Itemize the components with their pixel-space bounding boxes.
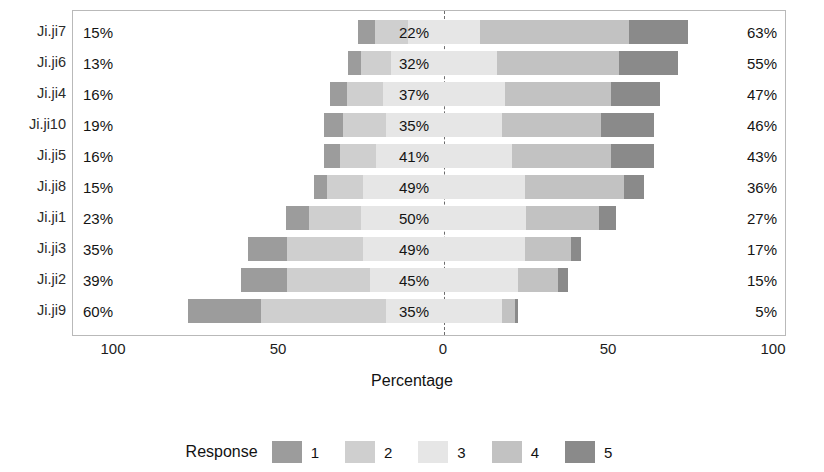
bar-segment-response-1[interactable] <box>248 237 288 261</box>
bar-segment-response-5[interactable] <box>619 51 678 75</box>
bar-segment-response-4[interactable] <box>526 206 599 230</box>
bar-segment-response-1[interactable] <box>324 113 344 137</box>
row-middle-percentage: 49% <box>379 172 449 203</box>
bar-segment-response-2[interactable] <box>287 268 370 292</box>
bar-segment-response-1[interactable] <box>286 206 309 230</box>
bar-segment-response-4[interactable] <box>502 113 601 137</box>
row-right-percentage: 36% <box>707 172 777 203</box>
legend-key-label: 3 <box>457 444 465 461</box>
row-left-percentage: 19% <box>83 110 113 141</box>
legend-items: 12345 <box>272 441 639 463</box>
y-axis-label-Ji-ji6: Ji.ji6 <box>0 47 66 78</box>
stacked-bar[interactable] <box>324 144 654 168</box>
legend-item-response-5[interactable]: 5 <box>565 441 632 463</box>
bar-segment-response-5[interactable] <box>601 113 654 137</box>
row-right-percentage: 46% <box>707 110 777 141</box>
bar-segment-response-5[interactable] <box>558 268 568 292</box>
legend-swatch-4 <box>492 441 522 463</box>
bar-segment-response-5[interactable] <box>599 206 616 230</box>
legend-swatch-2 <box>345 441 375 463</box>
legend-swatch-1 <box>272 441 302 463</box>
bar-segment-response-5[interactable] <box>611 82 661 106</box>
y-axis-label-Ji-ji3: Ji.ji3 <box>0 233 66 264</box>
bar-row: 15%22%63% <box>73 17 785 48</box>
likert-chart: Ji.ji7Ji.ji6Ji.ji4Ji.ji10Ji.ji5Ji.ji8Ji.… <box>0 0 824 472</box>
bar-segment-response-5[interactable] <box>629 20 688 44</box>
row-left-percentage: 15% <box>83 172 113 203</box>
bar-segment-response-5[interactable] <box>571 237 581 261</box>
row-middle-percentage: 37% <box>379 79 449 110</box>
bar-segment-response-4[interactable] <box>518 268 558 292</box>
row-right-percentage: 17% <box>707 234 777 265</box>
bar-segment-response-4[interactable] <box>480 20 629 44</box>
y-axis-label-Ji-ji4: Ji.ji4 <box>0 78 66 109</box>
row-middle-percentage: 22% <box>379 17 449 48</box>
row-middle-percentage: 32% <box>379 48 449 79</box>
legend-item-response-4[interactable]: 4 <box>492 441 559 463</box>
bar-segment-response-4[interactable] <box>502 299 515 323</box>
row-middle-percentage: 49% <box>379 234 449 265</box>
row-middle-percentage: 35% <box>379 296 449 327</box>
bar-segment-response-2[interactable] <box>261 299 386 323</box>
legend-item-response-1[interactable]: 1 <box>272 441 339 463</box>
bar-segment-response-2[interactable] <box>287 237 363 261</box>
legend: Response 12345 <box>0 436 824 468</box>
legend-item-response-2[interactable]: 2 <box>345 441 412 463</box>
bar-segment-response-1[interactable] <box>314 175 327 199</box>
plot-panel: 15%22%63%13%32%55%16%37%47%19%35%46%16%4… <box>72 10 786 336</box>
bar-segment-response-4[interactable] <box>512 144 611 168</box>
bar-row: 19%35%46% <box>73 110 785 141</box>
legend-key-label: 4 <box>531 444 539 461</box>
bar-row: 16%37%47% <box>73 79 785 110</box>
bar-segment-response-4[interactable] <box>525 175 624 199</box>
legend-title: Response <box>186 443 258 461</box>
bar-segment-response-4[interactable] <box>525 237 571 261</box>
row-left-percentage: 39% <box>83 265 113 296</box>
bar-segment-response-1[interactable] <box>348 51 361 75</box>
stacked-bar[interactable] <box>324 113 654 137</box>
bar-row: 16%41%43% <box>73 141 785 172</box>
bar-segment-response-1[interactable] <box>324 144 341 168</box>
bar-segment-response-2[interactable] <box>327 175 363 199</box>
y-axis-label-Ji-ji5: Ji.ji5 <box>0 140 66 171</box>
x-tick-label: 50 <box>248 340 308 357</box>
x-tick-label: 0 <box>413 340 473 357</box>
legend-swatch-5 <box>565 441 595 463</box>
row-right-percentage: 5% <box>707 296 777 327</box>
row-middle-percentage: 50% <box>379 203 449 234</box>
bar-segment-response-5[interactable] <box>611 144 654 168</box>
row-right-percentage: 47% <box>707 79 777 110</box>
bar-segment-response-2[interactable] <box>340 144 376 168</box>
row-middle-percentage: 35% <box>379 110 449 141</box>
bar-segment-response-1[interactable] <box>358 20 375 44</box>
bar-segment-response-4[interactable] <box>505 82 611 106</box>
legend-key-label: 5 <box>604 444 612 461</box>
row-middle-percentage: 41% <box>379 141 449 172</box>
bar-segment-response-2[interactable] <box>347 82 383 106</box>
row-left-percentage: 15% <box>83 17 113 48</box>
stacked-bar[interactable] <box>314 175 644 199</box>
legend-key-label: 2 <box>384 444 392 461</box>
row-right-percentage: 27% <box>707 203 777 234</box>
legend-item-response-3[interactable]: 3 <box>418 441 485 463</box>
y-axis-label-Ji-ji9: Ji.ji9 <box>0 295 66 326</box>
bar-row: 15%49%36% <box>73 172 785 203</box>
x-tick-label: 100 <box>743 340 803 357</box>
bar-row: 60%35%5% <box>73 296 785 327</box>
bar-segment-response-1[interactable] <box>241 268 287 292</box>
row-right-percentage: 15% <box>707 265 777 296</box>
row-left-percentage: 23% <box>83 203 113 234</box>
bar-segment-response-1[interactable] <box>188 299 261 323</box>
row-right-percentage: 63% <box>707 17 777 48</box>
bar-segment-response-5[interactable] <box>515 299 518 323</box>
row-right-percentage: 43% <box>707 141 777 172</box>
bar-row: 23%50%27% <box>73 203 785 234</box>
row-left-percentage: 13% <box>83 48 113 79</box>
bar-segment-response-5[interactable] <box>624 175 644 199</box>
bar-segment-response-1[interactable] <box>330 82 347 106</box>
bar-segment-response-4[interactable] <box>497 51 619 75</box>
stacked-bar[interactable] <box>286 206 616 230</box>
stacked-bar[interactable] <box>188 299 518 323</box>
bar-segment-response-2[interactable] <box>309 206 362 230</box>
row-left-percentage: 16% <box>83 79 113 110</box>
